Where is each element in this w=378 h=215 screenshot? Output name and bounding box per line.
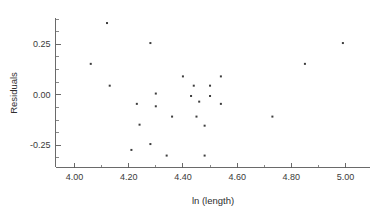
data-point [109, 85, 111, 87]
data-point [149, 143, 151, 145]
data-points-layer [90, 22, 344, 157]
y-axis-title: Residuals [8, 72, 19, 114]
y-axis-ticks [56, 19, 61, 158]
data-point [155, 105, 157, 107]
y-axis-tick-labels: 0.250.00-0.25 [30, 39, 51, 150]
x-tick-label: 4.20 [120, 172, 138, 182]
data-point [90, 63, 92, 65]
data-point [182, 75, 184, 77]
y-tick-label: 0.00 [33, 90, 51, 100]
data-point [220, 75, 222, 77]
data-point [139, 124, 141, 126]
data-point [136, 103, 138, 105]
data-point [149, 42, 151, 44]
x-tick-label: 5.00 [337, 172, 355, 182]
x-axis-title: ln (length) [192, 195, 234, 206]
data-point [106, 22, 108, 24]
data-point [198, 101, 200, 103]
data-point [130, 149, 132, 151]
x-tick-label: 4.80 [283, 172, 301, 182]
data-point [342, 42, 344, 44]
data-point [155, 93, 157, 95]
plot-canvas: 0.250.00-0.25 4.004.204.404.604.805.00 l… [0, 0, 378, 215]
data-point [204, 155, 206, 157]
data-point [190, 95, 192, 97]
y-tick-label: 0.25 [33, 39, 51, 49]
x-axis-tick-labels: 4.004.204.404.604.805.00 [66, 172, 355, 182]
data-point [193, 85, 195, 87]
data-point [171, 116, 173, 118]
data-point [220, 103, 222, 105]
data-point [304, 63, 306, 65]
data-point [271, 116, 273, 118]
data-point [204, 125, 206, 127]
data-point [209, 85, 211, 87]
x-axis-ticks [74, 163, 345, 168]
x-tick-label: 4.40 [174, 172, 192, 182]
x-tick-label: 4.00 [66, 172, 84, 182]
data-point [166, 155, 168, 157]
data-point [209, 95, 211, 97]
y-tick-label: -0.25 [30, 140, 51, 150]
scatter-plot-figure: 0.250.00-0.25 4.004.204.404.604.805.00 l… [0, 0, 378, 215]
x-tick-label: 4.60 [228, 172, 246, 182]
data-point [195, 116, 197, 118]
